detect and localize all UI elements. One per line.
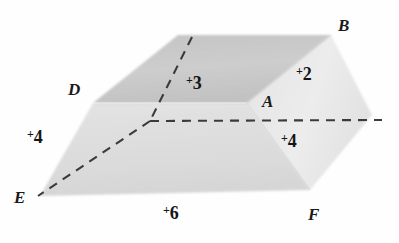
- vertex-label-a: A: [262, 93, 274, 110]
- solid-figure-svg: [0, 0, 399, 243]
- edge-measure-4-left: +4: [27, 128, 43, 146]
- plus-sign-6: +: [163, 203, 170, 217]
- hidden-horizontal-edge: [150, 120, 382, 121]
- edge-measure-2: +2: [296, 65, 312, 83]
- vertex-label-e: E: [14, 189, 26, 206]
- edge-measure-3: +3: [186, 74, 202, 92]
- vertex-label-d: D: [68, 81, 80, 98]
- value-3: 3: [193, 73, 202, 93]
- value-4-left: 4: [34, 127, 43, 147]
- vertex-label-b: B: [338, 17, 350, 34]
- value-6: 6: [170, 203, 179, 223]
- value-2: 2: [303, 64, 312, 84]
- geometric-figure-container: B D A E F +3 +2 +4 +4 +6: [0, 0, 399, 243]
- value-4-right: 4: [288, 131, 297, 151]
- vertex-label-f: F: [308, 206, 320, 223]
- edge-measure-6-bottom: +6: [163, 204, 179, 222]
- plus-sign-4-left: +: [27, 127, 34, 141]
- edge-measure-4-right: +4: [281, 132, 297, 150]
- plus-sign-3: +: [186, 73, 193, 87]
- plus-sign-2: +: [296, 64, 303, 78]
- plus-sign-4-right: +: [281, 131, 288, 145]
